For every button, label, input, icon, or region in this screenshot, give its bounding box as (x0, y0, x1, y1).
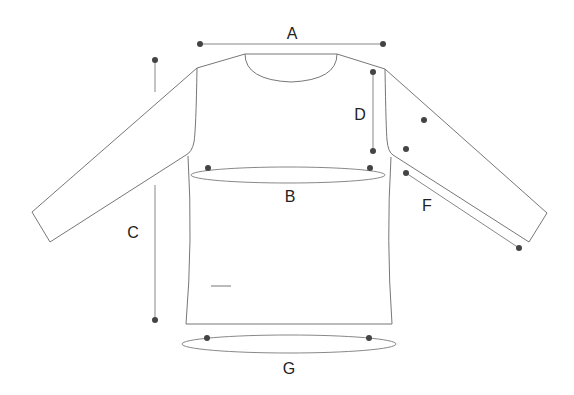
neckline (245, 54, 337, 82)
body (186, 156, 392, 324)
label-F: F (422, 198, 432, 214)
left-armhole (186, 68, 197, 155)
right-armhole (385, 69, 393, 155)
measure-ellipse-G (182, 335, 396, 353)
label-A: A (287, 26, 298, 42)
label-B: B (285, 189, 296, 205)
label-G: G (283, 361, 295, 377)
right-sleeve (385, 69, 547, 242)
measure-ellipse-B (191, 167, 385, 183)
label-C: C (127, 225, 139, 241)
shoulder-line (197, 54, 385, 69)
measurement-lines (155, 44, 519, 353)
left-sleeve (32, 68, 197, 242)
measurement-dots (152, 41, 522, 341)
label-D: D (354, 107, 366, 123)
